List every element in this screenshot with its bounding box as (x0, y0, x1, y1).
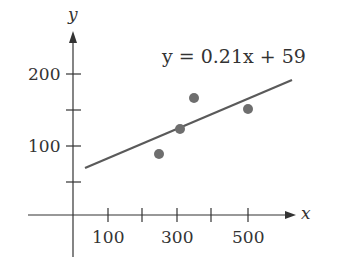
regression-line (85, 80, 292, 168)
x-tick-label-300: 300 (161, 229, 193, 246)
data-point (154, 149, 164, 159)
y-axis-label: y (68, 6, 78, 23)
y-tick-label-100: 100 (28, 138, 60, 155)
x-axis-arrow-icon (285, 211, 296, 219)
x-tick-label-100: 100 (92, 229, 124, 246)
x-tick-label-500: 500 (232, 229, 264, 246)
regression-equation: y = 0.21x + 59 (162, 47, 306, 66)
x-axis-label: x (301, 205, 311, 222)
y-tick-label-200: 200 (28, 66, 60, 83)
data-point (243, 104, 253, 114)
data-point (175, 124, 185, 134)
data-point (189, 93, 199, 103)
chart-canvas (0, 0, 341, 264)
y-axis-arrow-icon (69, 31, 77, 43)
